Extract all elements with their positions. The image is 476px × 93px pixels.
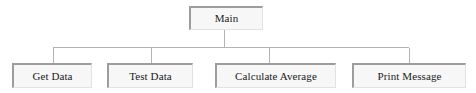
node-get-data-label: Get Data [32, 71, 72, 82]
node-main[interactable]: Main [189, 6, 263, 30]
node-print-message-label: Print Message [378, 71, 442, 82]
node-calculate-average[interactable]: Calculate Average [215, 63, 336, 88]
node-test-data-label: Test Data [129, 71, 172, 82]
node-main-label: Main [215, 13, 239, 24]
node-get-data[interactable]: Get Data [12, 63, 92, 88]
node-print-message[interactable]: Print Message [352, 63, 466, 88]
node-test-data[interactable]: Test Data [107, 63, 193, 88]
structure-chart-diagram: Main Get Data Test Data Calculate Averag… [0, 0, 476, 93]
node-calculate-average-label: Calculate Average [235, 71, 317, 82]
